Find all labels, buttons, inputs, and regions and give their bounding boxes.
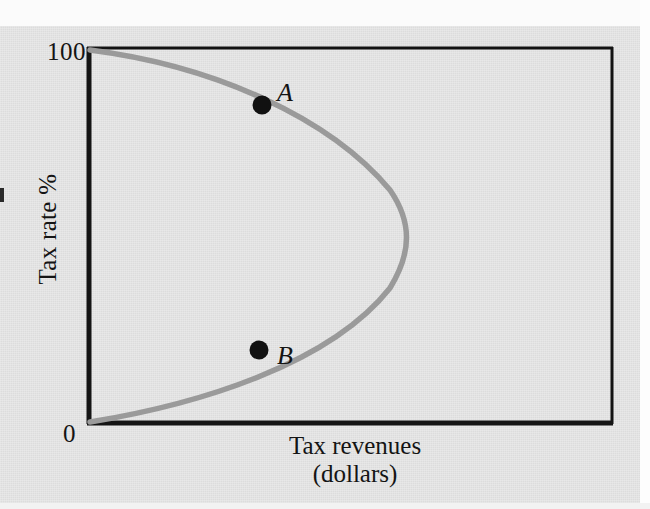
laffer-curve-figure: 100 0 Tax rate % Tax revenues (dollars) …: [0, 0, 650, 509]
x-axis-title-line1: Tax revenues: [289, 432, 421, 459]
plot-frame: [87, 47, 613, 424]
laffer-curve-path: [90, 50, 407, 422]
y-axis-tick-0: 0: [63, 420, 76, 448]
data-point-label-a: A: [277, 78, 293, 108]
x-axis-title: Tax revenues (dollars): [200, 432, 510, 488]
x-axis-title-line2: (dollars): [200, 460, 510, 488]
y-axis-title: Tax rate %: [34, 159, 62, 299]
data-point-b[interactable]: [250, 341, 269, 360]
data-point-a[interactable]: [253, 96, 272, 115]
y-axis-tick-100: 100: [47, 38, 86, 66]
data-point-label-b: B: [277, 341, 293, 371]
